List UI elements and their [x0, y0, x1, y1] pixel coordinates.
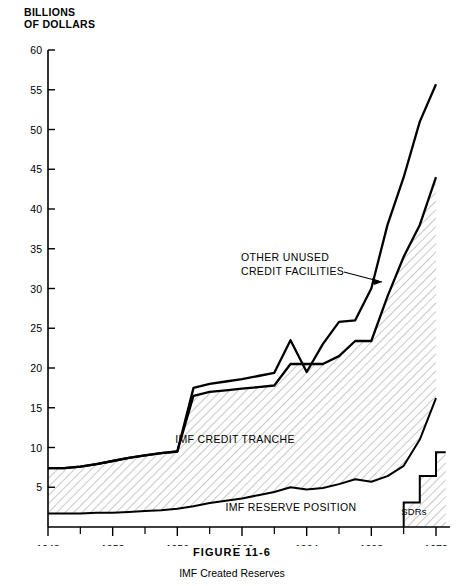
- figure-title: IMF Created Reserves: [0, 567, 464, 579]
- svg-text:50: 50: [30, 124, 42, 136]
- svg-text:25: 25: [30, 322, 42, 334]
- chart-canvas: 51015202530354045505560 1948195219561960…: [0, 0, 464, 546]
- svg-text:45: 45: [30, 163, 42, 175]
- annotation-other-unused: OTHER UNUSED CREDIT FACILITIES: [241, 251, 382, 285]
- svg-text:30: 30: [30, 283, 42, 295]
- svg-text:10: 10: [30, 442, 42, 454]
- svg-text:60: 60: [30, 44, 42, 56]
- figure-number: FIGURE 11-6: [0, 546, 464, 558]
- svg-text:15: 15: [30, 402, 42, 414]
- reserve-position-label: IMF RESERVE POSITION: [225, 501, 356, 513]
- svg-text:5: 5: [36, 481, 42, 493]
- figure-container: BILLIONS OF DOLLARS 51015202530354045505…: [0, 0, 464, 586]
- svg-text:20: 20: [30, 362, 42, 374]
- svg-text:55: 55: [30, 84, 42, 96]
- svg-text:40: 40: [30, 203, 42, 215]
- other-unused-label-line2: CREDIT FACILITIES: [241, 265, 344, 277]
- credit-tranche-label: IMF CREDIT TRANCHE: [175, 433, 295, 445]
- figure-caption: FIGURE 11-6 IMF Created Reserves: [0, 546, 464, 579]
- svg-text:35: 35: [30, 243, 42, 255]
- sdrs-label: SDRs: [401, 506, 427, 517]
- other-unused-label-line1: OTHER UNUSED: [241, 251, 329, 263]
